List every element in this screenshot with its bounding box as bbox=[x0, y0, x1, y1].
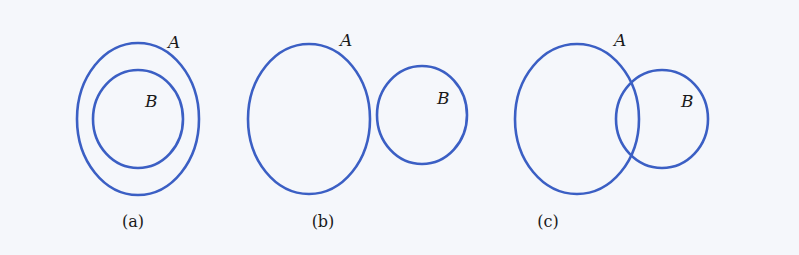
set-b-ellipse bbox=[377, 66, 467, 164]
panel-caption: (c) bbox=[537, 212, 558, 231]
set-b-label: B bbox=[144, 91, 158, 111]
panel-c: AB(c) bbox=[515, 30, 708, 231]
panel-caption: (a) bbox=[122, 212, 144, 231]
panel-caption: (b) bbox=[312, 212, 335, 231]
set-a-label: A bbox=[166, 32, 180, 52]
set-b-label: B bbox=[436, 88, 450, 108]
set-a-ellipse bbox=[77, 43, 199, 195]
set-a-ellipse bbox=[248, 44, 370, 194]
set-b-ellipse bbox=[93, 70, 183, 168]
set-a-ellipse bbox=[515, 44, 639, 194]
set-b-ellipse bbox=[616, 70, 708, 168]
set-a-label: A bbox=[338, 30, 352, 50]
venn-diagram-figure: AB(a)AB(b)AB(c) bbox=[0, 0, 799, 255]
set-b-label: B bbox=[680, 91, 694, 111]
set-a-label: A bbox=[612, 30, 626, 50]
panel-a: AB(a) bbox=[77, 32, 199, 231]
panel-b: AB(b) bbox=[248, 30, 467, 231]
